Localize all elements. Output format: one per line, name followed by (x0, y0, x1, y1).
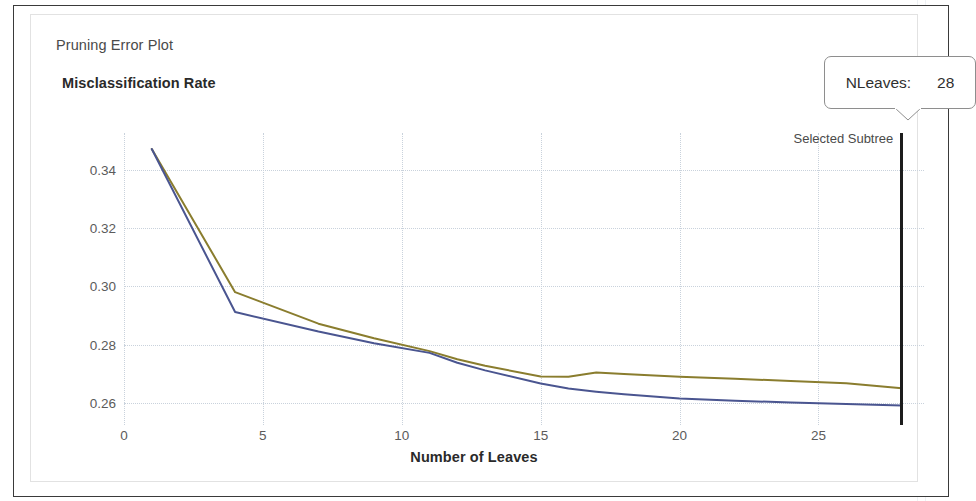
x-axis-tick-label: 25 (811, 428, 826, 443)
y-axis-tick-label: 0.34 (90, 162, 116, 177)
nleaves-callout-value: 28 (937, 74, 954, 92)
y-axis-tick-label: 0.28 (90, 337, 116, 352)
selected-subtree-line[interactable] (900, 133, 903, 425)
y-axis-tick-label: 0.26 (90, 396, 116, 411)
x-axis-tick-label: 5 (259, 428, 267, 443)
nleaves-callout[interactable]: NLeaves: 28 (824, 56, 976, 109)
x-axis-tick-labels: 0510152025 (124, 428, 924, 450)
application-window-frame: Pruning Error Plot Misclassification Rat… (13, 5, 949, 497)
x-axis-title: Number of Leaves (31, 449, 917, 465)
x-axis-tick-label: 15 (533, 428, 548, 443)
nleaves-callout-label: NLeaves: (846, 74, 911, 92)
series-line-resubstitution-error (152, 149, 902, 405)
y-axis-tick-label: 0.30 (90, 279, 116, 294)
selected-subtree-label: Selected Subtree (794, 131, 901, 146)
y-axis-tick-labels: 0.260.280.300.320.34 (64, 133, 116, 425)
series-lines (124, 133, 924, 425)
x-axis-tick-label: 10 (394, 428, 409, 443)
x-axis-tick-label: 0 (120, 428, 128, 443)
y-axis-tick-label: 0.32 (90, 220, 116, 235)
pruning-error-plot-panel: Pruning Error Plot Misclassification Rat… (30, 14, 918, 482)
series-line-cross-validated-error (152, 149, 902, 388)
plot-title: Pruning Error Plot (56, 37, 173, 53)
y-axis-title: Misclassification Rate (62, 75, 216, 91)
plot-area (124, 133, 924, 425)
callout-tail-icon (895, 108, 921, 121)
x-axis-tick-label: 20 (672, 428, 687, 443)
